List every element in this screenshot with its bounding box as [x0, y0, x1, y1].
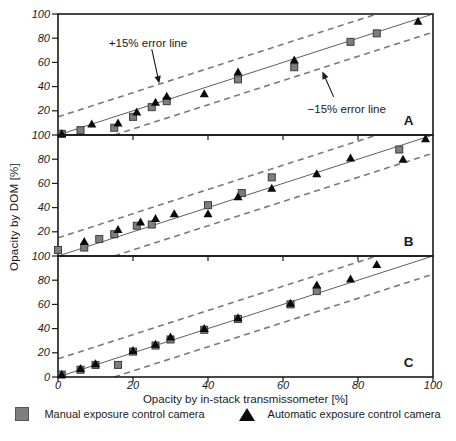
data-point-triangle [346, 153, 355, 161]
y-tick-label: 60 [38, 298, 51, 310]
x-tick-label: 40 [202, 379, 215, 391]
data-point-square [96, 236, 103, 243]
data-point-triangle [151, 214, 160, 222]
reference-line-identity [58, 256, 433, 377]
y-tick-label: 20 [37, 104, 51, 116]
data-point-square [55, 246, 62, 253]
y-tick-label: 20 [37, 225, 51, 237]
y-tick-label: 60 [38, 177, 51, 189]
y-tick-label: 40 [38, 322, 51, 334]
annotation-text-0: +15% error line [109, 37, 187, 49]
x-tick-label: 60 [277, 379, 290, 391]
panel-B [52, 134, 433, 261]
data-point-triangle [114, 225, 123, 233]
panel-letter-B: B [404, 234, 414, 249]
data-point-square [81, 244, 88, 251]
scatter-plot-canvas: 10080604020+15% error line−15% error lin… [0, 0, 456, 441]
x-tick-label: 100 [424, 379, 443, 391]
legend-label-automatic: Automatic exposure control camera [268, 408, 441, 420]
data-point-square [313, 288, 320, 295]
y-tick-label: 80 [38, 32, 51, 44]
data-point-square [115, 361, 122, 368]
data-point-triangle [151, 98, 160, 106]
y-tick-label: 40 [38, 80, 51, 92]
y-axis-label: Opacity by DOM [%] [8, 137, 20, 297]
y-tick-label: 20 [37, 346, 51, 358]
annotation-arrow-1-shaft [324, 76, 333, 97]
y-tick-label: 80 [38, 153, 51, 165]
legend-label-manual: Manual exposure control camera [44, 408, 204, 420]
annotation-text-1: −15% error line [308, 103, 386, 115]
y-tick-label: 60 [38, 56, 51, 68]
data-point-triangle [87, 120, 96, 128]
y-tick-label: 100 [32, 8, 51, 20]
data-point-square [77, 127, 84, 134]
panel-C [52, 256, 433, 382]
data-point-triangle [312, 281, 321, 289]
data-point-triangle [346, 274, 355, 282]
data-point-square [291, 64, 298, 71]
panel-A [52, 14, 433, 140]
x-tick-label: 80 [352, 379, 365, 391]
data-point-square [268, 174, 275, 181]
opacity-comparison-figure: 10080604020+15% error line−15% error lin… [0, 0, 456, 441]
data-point-triangle [136, 218, 145, 226]
legend: Manual exposure control camera Automatic… [0, 407, 456, 421]
data-point-square [373, 30, 380, 37]
data-point-square [396, 146, 403, 153]
data-point-triangle [234, 68, 243, 76]
data-point-triangle [80, 237, 89, 245]
data-point-triangle [399, 155, 408, 163]
legend-square-icon [15, 407, 29, 421]
data-point-square [347, 38, 354, 45]
panel-letter-A: A [404, 113, 414, 128]
x-tick-label: 20 [126, 379, 140, 391]
x-axis-label: Opacity by in-stack transmissometer [%] [58, 393, 433, 405]
annotation-arrow-0-head [155, 76, 161, 84]
data-point-triangle [204, 209, 213, 217]
data-point-triangle [114, 118, 123, 126]
panel-letter-C: C [404, 355, 414, 370]
y-tick-label: 0 [44, 371, 51, 383]
data-point-square [148, 221, 155, 228]
data-point-triangle [372, 260, 381, 268]
data-point-triangle [162, 92, 171, 100]
data-point-triangle [200, 89, 209, 97]
data-point-triangle [170, 209, 179, 217]
annotation-arrow-0-shaft [152, 49, 159, 79]
data-point-square [205, 202, 212, 209]
legend-triangle-icon [239, 408, 255, 421]
x-tick-label: 0 [55, 379, 62, 391]
y-tick-label: 100 [32, 250, 51, 262]
y-tick-label: 40 [38, 201, 51, 213]
data-point-square [235, 76, 242, 83]
y-tick-label: 80 [38, 274, 51, 286]
y-tick-label: 100 [32, 129, 51, 141]
